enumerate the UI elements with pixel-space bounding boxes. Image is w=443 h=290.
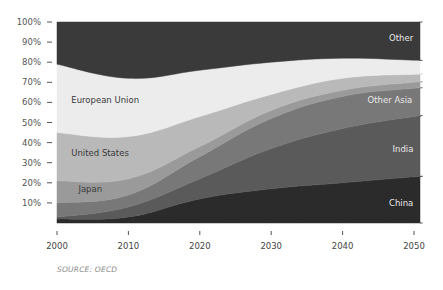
y-tick-label: 20% xyxy=(22,178,41,188)
x-axis: 200020102020203020402050 xyxy=(46,231,425,251)
y-tick-label: 10% xyxy=(22,198,41,208)
x-tick-label: 2050 xyxy=(403,241,425,251)
x-tick-label: 2030 xyxy=(260,241,282,251)
y-axis: 10%20%30%40%50%60%70%80%90%100% xyxy=(17,17,52,208)
x-tick-label: 2000 xyxy=(46,241,68,251)
y-tick-label: 70% xyxy=(22,77,41,87)
label-china: China xyxy=(389,198,413,208)
label-european-union: European Union xyxy=(71,95,139,105)
label-other-asia: Other Asia xyxy=(368,95,413,105)
x-tick-label: 2020 xyxy=(189,241,211,251)
chart-areas xyxy=(57,22,422,223)
label-other: Other xyxy=(389,33,414,43)
source-note: SOURCE: OECD xyxy=(57,265,117,274)
label-united-states: United States xyxy=(71,148,129,158)
label-india: India xyxy=(393,144,414,154)
y-tick-label: 80% xyxy=(22,57,41,67)
x-tick-label: 2040 xyxy=(332,241,354,251)
x-tick-label: 2010 xyxy=(118,241,140,251)
stacked-area-chart: 10%20%30%40%50%60%70%80%90%100% 20002010… xyxy=(0,0,443,260)
label-japan: Japan xyxy=(77,184,102,194)
y-tick-label: 50% xyxy=(22,118,41,128)
y-tick-label: 60% xyxy=(22,97,41,107)
y-tick-label: 40% xyxy=(22,138,41,148)
y-tick-label: 90% xyxy=(22,37,41,47)
y-tick-label: 100% xyxy=(17,17,41,27)
y-tick-label: 30% xyxy=(22,158,41,168)
